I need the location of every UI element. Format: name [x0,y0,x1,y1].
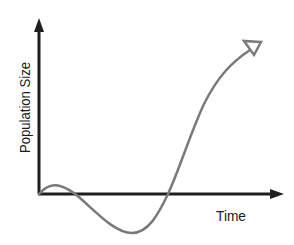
y-axis-label: Population Size [17,62,33,153]
x-axis-label: Time [216,208,246,224]
population-diagram: Time Population Size [0,0,294,245]
y-axis-arrow-icon [34,18,44,32]
x-axis-arrow-icon [270,189,284,199]
population-curve [39,50,250,233]
